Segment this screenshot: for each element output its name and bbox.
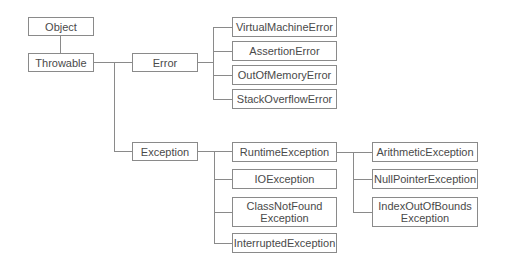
node-virtual-machine-error: VirtualMachineError <box>232 17 337 37</box>
node-runtime-exception: RuntimeException <box>232 142 337 162</box>
edge-error-children <box>213 27 214 100</box>
edge-to-io <box>214 179 232 180</box>
edge-to-indexoutofbounds <box>353 212 372 213</box>
node-index-out-of-bounds-exception: IndexOutOfBounds Exception <box>372 197 478 227</box>
edge-to-oom <box>213 75 232 76</box>
node-throwable: Throwable <box>28 53 94 72</box>
node-class-not-found-exception: ClassNotFound Exception <box>232 197 337 227</box>
node-io-exception: IOException <box>232 169 337 189</box>
node-exception: Exception <box>132 142 198 161</box>
node-assertion-error: AssertionError <box>232 41 337 61</box>
edge-to-classnotfound <box>214 212 232 213</box>
node-out-of-memory-error: OutOfMemoryError <box>232 65 337 85</box>
node-object: Object <box>28 17 94 36</box>
edge-throwable-down <box>114 62 115 152</box>
edge-error-out <box>198 62 213 63</box>
edge-throwable-out <box>94 62 132 63</box>
edge-to-stackoverflow <box>213 99 232 100</box>
edge-to-vmerror <box>213 27 232 28</box>
edge-runtime-children <box>353 152 354 212</box>
edge-to-exception <box>114 151 132 152</box>
node-interrupted-exception: InterruptedException <box>232 233 337 253</box>
node-arithmetic-exception: ArithmeticException <box>372 142 478 162</box>
edge-exception-out <box>198 151 232 152</box>
node-error: Error <box>132 53 198 72</box>
node-stack-overflow-error: StackOverflowError <box>232 89 337 109</box>
edge-to-interrupted <box>214 243 232 244</box>
node-null-pointer-exception: NullPointerException <box>372 169 478 189</box>
edge-object-throwable <box>60 36 61 53</box>
edge-exception-children <box>214 151 215 243</box>
edge-runtime-out <box>337 152 372 153</box>
edge-to-assertion <box>213 51 232 52</box>
edge-to-nullpointer <box>353 179 372 180</box>
